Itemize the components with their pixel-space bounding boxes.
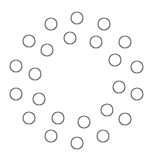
outer-ring (10, 12, 143, 149)
inner-circle-4 (101, 104, 113, 116)
inner-circle-6 (52, 112, 64, 124)
outer-circle-11 (10, 60, 22, 72)
outer-circle-4 (131, 88, 143, 100)
outer-circle-6 (97, 130, 109, 142)
inner-circle-9 (41, 44, 53, 56)
inner-circle-8 (29, 68, 41, 80)
outer-circle-0 (71, 12, 83, 24)
outer-circle-10 (10, 88, 22, 100)
outer-circle-2 (119, 36, 131, 48)
outer-circle-12 (23, 35, 35, 47)
inner-circle-1 (90, 36, 102, 48)
outer-circle-5 (119, 113, 131, 125)
inner-ring (29, 32, 125, 128)
inner-circle-2 (109, 54, 121, 66)
outer-circle-8 (45, 130, 57, 142)
inner-circle-5 (78, 116, 90, 128)
outer-circle-7 (71, 137, 83, 149)
inner-circle-7 (33, 93, 45, 105)
outer-circle-3 (131, 61, 143, 73)
inner-circle-3 (113, 81, 125, 93)
outer-circle-13 (45, 18, 57, 30)
outer-circle-9 (23, 112, 35, 124)
inner-circle-0 (64, 32, 76, 44)
circle-ring-diagram (0, 0, 154, 156)
outer-circle-1 (98, 18, 110, 30)
